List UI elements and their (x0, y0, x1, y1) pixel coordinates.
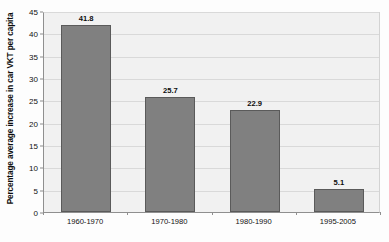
y-axis-tick-35: 35 (29, 52, 38, 61)
x-axis-tickmark (380, 212, 381, 215)
bar-1960-1970[interactable] (61, 25, 111, 212)
y-axis-tick-10: 10 (29, 164, 38, 173)
y-axis-tick-labels: 051015202530354045 (20, 12, 40, 213)
x-axis-tickmark (296, 212, 297, 215)
x-axis-tickmark (212, 212, 213, 215)
bar-1995-2005[interactable] (314, 189, 364, 212)
bar-value-label: 5.1 (334, 178, 345, 187)
x-axis-label-1995-2005: 1995-2005 (320, 217, 356, 226)
bar-1980-1990[interactable] (230, 110, 280, 212)
plot-area: 41.825.722.95.1 (43, 12, 380, 213)
bar-1970-1980[interactable] (145, 97, 195, 212)
x-axis-tickmark (43, 212, 44, 215)
bar-slot: 5.1 (297, 13, 381, 212)
x-axis-label-1980-1990: 1980-1990 (235, 217, 271, 226)
x-axis-tickmark (127, 212, 128, 215)
bar-slot: 22.9 (213, 13, 297, 212)
bar-slot: 41.8 (44, 13, 128, 212)
x-axis-label-1960-1970: 1960-1970 (67, 217, 103, 226)
x-axis-label-1970-1980: 1970-1980 (151, 217, 187, 226)
y-axis-tick-0: 0 (34, 209, 38, 218)
y-axis-tick-30: 30 (29, 75, 38, 84)
x-axis-tick-labels: 1960-19701970-19801980-19901995-2005 (43, 215, 380, 231)
bar-value-label: 22.9 (247, 99, 262, 108)
y-axis-tick-45: 45 (29, 8, 38, 17)
y-axis-tick-15: 15 (29, 142, 38, 151)
y-axis-tick-20: 20 (29, 119, 38, 128)
bar-slot: 25.7 (128, 13, 212, 212)
y-axis-title-container: Percentage average increase in car VKT p… (0, 0, 20, 220)
bar-value-label: 25.7 (163, 86, 178, 95)
y-axis-tick-25: 25 (29, 97, 38, 106)
bar-series: 41.825.722.95.1 (44, 13, 379, 212)
y-axis-tick-5: 5 (34, 186, 38, 195)
bar-value-label: 41.8 (79, 14, 94, 23)
y-axis-tick-40: 40 (29, 30, 38, 39)
y-axis-title: Percentage average increase in car VKT p… (6, 1, 15, 217)
bar-chart-figure: Percentage average increase in car VKT p… (0, 0, 389, 242)
